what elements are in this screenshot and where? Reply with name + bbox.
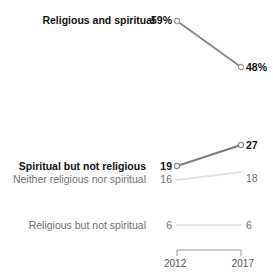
- x-axis-tick-2017: 2017: [214, 258, 254, 269]
- series-line-religious-and-spiritual: [177, 21, 241, 67]
- series-line-neither-religious-nor-spiritual: [177, 172, 241, 180]
- series-label-spiritual-but-not-religious: Spiritual but not religious: [0, 160, 146, 172]
- value-2017-spiritual-but-not-religious: 27: [246, 139, 273, 151]
- series-label-religious-but-not-spiritual: Religious but not spiritual: [0, 219, 146, 231]
- value-2012-religious-and-spiritual: 59%: [120, 14, 172, 26]
- series-marker-religious-and-spiritual-2017: [238, 64, 243, 69]
- series-marker-religious-and-spiritual-2012: [174, 18, 179, 23]
- x-axis-bracket: [177, 250, 241, 256]
- value-2012-neither-religious-nor-spiritual: 16: [150, 173, 172, 185]
- value-2017-religious-but-not-spiritual: 6: [246, 219, 273, 231]
- series-marker-spiritual-but-not-religious-2012: [174, 163, 179, 168]
- value-2017-religious-and-spiritual: 48%: [246, 61, 273, 73]
- series-label-neither-religious-nor-spiritual: Neither religious nor spiritual: [0, 173, 146, 185]
- series-line-spiritual-but-not-religious: [177, 145, 241, 166]
- series-marker-spiritual-but-not-religious-2017: [238, 142, 243, 147]
- value-2017-neither-religious-nor-spiritual: 18: [246, 172, 273, 184]
- value-2012-religious-but-not-spiritual: 6: [150, 219, 172, 231]
- slope-chart-plot: [0, 0, 273, 280]
- value-2012-spiritual-but-not-religious: 19: [150, 160, 172, 172]
- x-axis-tick-2012: 2012: [164, 258, 204, 269]
- slope-chart: Religious and spiritual Spiritual but no…: [0, 0, 273, 280]
